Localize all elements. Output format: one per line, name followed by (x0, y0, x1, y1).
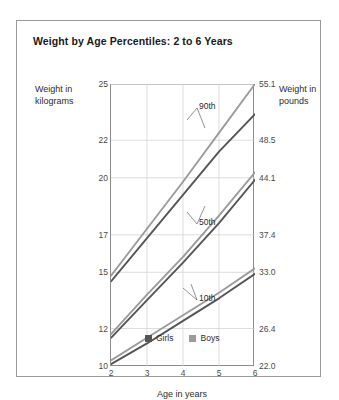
legend-item-boys: Boys (189, 333, 219, 343)
y-tick-left: 17 (99, 230, 108, 240)
x-tick: 2 (109, 368, 114, 378)
chart-figure-frame: Weight by Age Percentiles: 2 to 6 Years … (16, 20, 321, 377)
y-axis-left-caption: Weight in kilograms (35, 83, 101, 107)
y-axis-right-caption: Weight in pounds (279, 83, 339, 107)
chart-plot-svg (111, 84, 255, 366)
y-tick-left: 20 (99, 173, 108, 183)
y-tick-right: 33.0 (259, 267, 276, 277)
annotation-leader-lines (183, 108, 205, 300)
y-tick-left: 22 (99, 135, 108, 145)
legend-label-girls: Girls (156, 333, 173, 343)
y-tick-right: 26.4 (259, 324, 276, 334)
annotation-50th: 50th (199, 217, 216, 227)
y-tick-right: 44.1 (259, 173, 276, 183)
y-tick-left: 15 (99, 267, 108, 277)
x-tick: 4 (181, 368, 186, 378)
annotation-90th: 90th (199, 101, 216, 111)
y-tick-left: 12 (99, 324, 108, 334)
legend-swatch-boys (189, 335, 196, 342)
plot-area: 25222017151210 55.148.544.137.433.026.42… (110, 84, 254, 366)
chart-legend: Girls Boys (145, 333, 219, 343)
legend-item-girls: Girls (145, 333, 173, 343)
legend-label-boys: Boys (200, 333, 219, 343)
legend-swatch-girls (145, 335, 152, 342)
y-tick-right: 22.0 (259, 361, 276, 371)
y-tick-right: 37.4 (259, 230, 276, 240)
x-tick: 6 (253, 368, 258, 378)
x-tick: 3 (145, 368, 150, 378)
y-tick-left: 10 (99, 361, 108, 371)
y-tick-right: 55.1 (259, 79, 276, 89)
annotation-10th: 10th (199, 293, 216, 303)
chart-title: Weight by Age Percentiles: 2 to 6 Years (33, 35, 233, 47)
x-tick: 5 (217, 368, 222, 378)
y-tick-right: 48.5 (259, 135, 276, 145)
x-axis-caption: Age in years (110, 389, 254, 399)
